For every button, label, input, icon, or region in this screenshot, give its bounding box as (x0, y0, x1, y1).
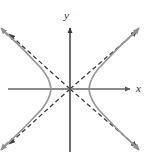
x-axis-label: x (135, 82, 141, 94)
y-axis-label: y (63, 9, 69, 21)
hyperbola-figure: x y (0, 0, 146, 159)
hyperbola-plot-canvas: x y (0, 0, 146, 159)
